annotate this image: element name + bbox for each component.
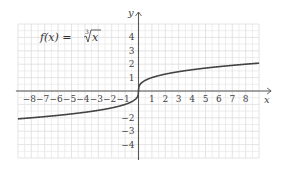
x-axis-label: x: [264, 94, 270, 105]
y-tick-label: 1: [129, 73, 135, 83]
y-tick-label: −4: [121, 140, 135, 150]
x-tick-label: 6: [216, 94, 222, 104]
y-tick-label: 4: [129, 32, 135, 42]
y-tick-label: −2: [121, 113, 134, 123]
title-prefix: f(x) =: [39, 31, 72, 44]
x-tick-label: −2: [103, 94, 116, 104]
cube-root-chart: −8−7−6−5−4−3−2−112345678−4−3−21234 x y f…: [0, 0, 288, 169]
title-radicand: x: [92, 31, 99, 44]
x-tick-label: 8: [243, 94, 249, 104]
x-tick-label: −4: [76, 94, 90, 104]
y-tick-label: 3: [129, 46, 135, 56]
x-tick-label: 2: [162, 94, 168, 104]
y-tick-label: −3: [121, 126, 135, 136]
x-tick-label: −1: [116, 94, 129, 104]
x-tick-label: −7: [36, 94, 50, 104]
x-tick-label: 7: [229, 94, 235, 104]
svg-text:f(x) =: f(x) =: [39, 31, 72, 44]
x-tick-label: 4: [189, 94, 195, 104]
function-title: f(x) = 3 x: [39, 28, 101, 44]
x-tick-label: −6: [49, 94, 63, 104]
y-axis-label: y: [127, 7, 134, 18]
x-tick-label: 5: [203, 94, 209, 104]
x-tick-label: −5: [63, 94, 77, 104]
radical-index: 3: [85, 28, 89, 35]
x-tick-label: 1: [149, 94, 155, 104]
x-tick-label: 3: [176, 94, 182, 104]
y-tick-label: 2: [129, 59, 135, 69]
x-tick-label: −3: [90, 94, 104, 104]
x-tick-label: −8: [23, 94, 37, 104]
